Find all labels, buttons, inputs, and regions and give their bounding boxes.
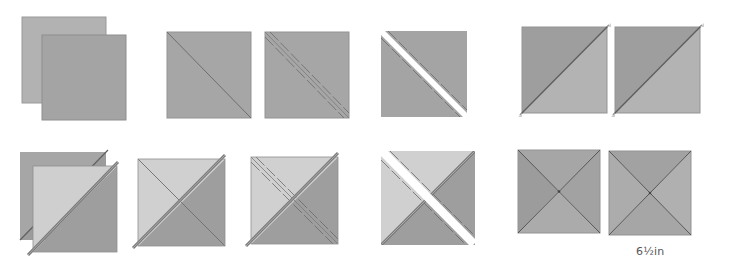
step-5-half-square-triangles: [518, 23, 704, 117]
qst-unit-1: [518, 150, 600, 233]
qst-unit-2: [609, 151, 691, 235]
step-3-stitch-lines: [265, 32, 349, 118]
hst-unit-1: [518, 23, 611, 117]
dog-ear: [518, 113, 522, 117]
step-1-layered-squares: [22, 17, 126, 120]
dog-ear: [611, 113, 615, 117]
step-2-diagonal-line: [167, 32, 251, 118]
hst-unit-2: [611, 23, 704, 117]
step-8-stitch-lines: [246, 153, 338, 246]
step-6-layered-hst: [20, 150, 118, 255]
step-4-cut: [379, 29, 469, 119]
front-hst: [28, 162, 118, 255]
front-square: [42, 35, 126, 120]
quilt-diagram: [0, 0, 737, 261]
step-9-cut: [376, 147, 477, 250]
size-label: 6½in: [636, 245, 665, 258]
step-10-quarter-square-triangles: [518, 150, 691, 235]
step-7-diagonal-line: [133, 155, 225, 248]
